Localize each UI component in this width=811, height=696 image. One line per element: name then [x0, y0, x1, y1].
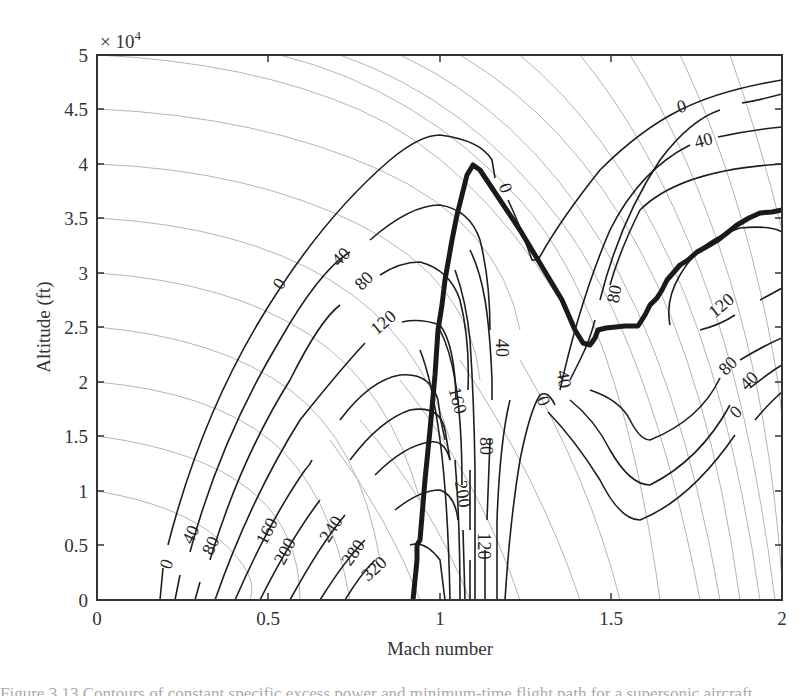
- y-tick-label: 4.5: [64, 99, 88, 120]
- contour-80-left: [195, 262, 468, 600]
- contour-label: 80: [603, 283, 626, 304]
- y-tick-label: 2: [79, 372, 89, 393]
- contour-160: [235, 375, 445, 600]
- y-tick-label: 1: [79, 481, 89, 502]
- y-tick-label: 3: [79, 263, 89, 284]
- contour-0-notch: [505, 394, 555, 600]
- x-tick-label: 1.5: [599, 608, 623, 629]
- x-tick-label: 0: [92, 608, 102, 629]
- x-axis: 0 0.5 1 1.5 2 Mach number: [92, 55, 787, 659]
- contour-label: 200: [270, 535, 300, 568]
- x-tick-label: 0.5: [256, 608, 280, 629]
- contour-label: 40: [735, 367, 762, 394]
- y-tick-label: 1.5: [64, 426, 88, 447]
- x-tick-label: 2: [777, 608, 787, 629]
- contour-label: 0: [533, 393, 555, 408]
- y-tick-label: 5: [79, 45, 89, 66]
- y-tick-label: 0: [79, 590, 89, 611]
- contour-label: 80: [198, 533, 224, 558]
- contour-label: 40: [552, 368, 575, 389]
- contour-120-left: [215, 321, 456, 600]
- contour-280: [320, 490, 458, 600]
- contour-label: 80: [476, 437, 496, 455]
- y-tick-label: 4: [79, 154, 89, 175]
- figure-caption: Figure 3.13 Contours of constant specifi…: [0, 682, 811, 696]
- x-tick-label: 1: [435, 608, 445, 629]
- contour-label: 160: [445, 385, 471, 416]
- contour-label: 40: [692, 128, 715, 152]
- y-tick-label: 2.5: [64, 317, 88, 338]
- contour-label: 320: [357, 552, 390, 585]
- y-tick-label: 0.5: [64, 535, 88, 556]
- y-axis-exponent: × 104: [100, 28, 141, 52]
- contour-label: 120: [474, 533, 494, 560]
- y-tick-label: 3.5: [64, 208, 88, 229]
- contour-label: 40: [492, 339, 512, 357]
- contour-label: 240: [315, 512, 346, 545]
- contour-chart: 0 40 80 120 0 0 40 80 160 200 240 280 32…: [0, 0, 811, 696]
- contour-label: 0: [155, 556, 177, 571]
- contour-label: 80: [350, 267, 377, 294]
- y-axis-title: Altitude (ft): [33, 281, 55, 372]
- x-axis-title: Mach number: [387, 638, 494, 659]
- contour-label: 80: [714, 352, 741, 379]
